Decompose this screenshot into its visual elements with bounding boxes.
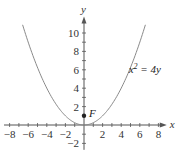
y-tick-label: −2 bbox=[67, 137, 79, 149]
parabola-chart: −8−6−4−22468−2246810 F x y x2 = 4y bbox=[0, 0, 182, 154]
equation-rest: = 4y bbox=[138, 63, 161, 75]
focus-label: F bbox=[88, 107, 96, 119]
x-tick-label: −4 bbox=[41, 128, 53, 140]
y-axis-arrow bbox=[82, 16, 87, 23]
focus-point bbox=[82, 114, 86, 118]
x-tick-label: 2 bbox=[100, 128, 106, 140]
equation-annotation: x2 = 4y bbox=[128, 62, 161, 75]
x-tick-label: −8 bbox=[4, 128, 16, 140]
y-tick-label: 4 bbox=[74, 82, 80, 94]
x-axis-label: x bbox=[169, 118, 175, 130]
x-tick-label: 4 bbox=[118, 128, 124, 140]
x-tick-label: 8 bbox=[156, 128, 162, 140]
y-tick-label: 10 bbox=[68, 27, 80, 39]
y-tick-label: 2 bbox=[74, 101, 80, 113]
x-tick-label: −6 bbox=[22, 128, 34, 140]
x-axis-arrow bbox=[160, 123, 167, 128]
x-tick-label: 6 bbox=[137, 128, 143, 140]
y-axis-label: y bbox=[80, 3, 86, 15]
y-tick-label: 6 bbox=[74, 64, 80, 76]
y-tick-label: 8 bbox=[74, 45, 80, 57]
